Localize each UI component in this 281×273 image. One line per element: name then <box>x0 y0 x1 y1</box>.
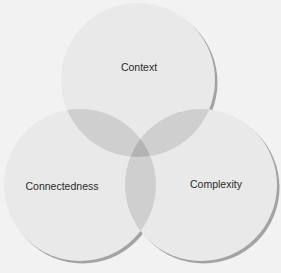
context-label: Context <box>121 61 157 73</box>
connectedness-label: Connectedness <box>26 180 99 192</box>
venn-diagram: Context Connectedness Complexity <box>0 0 281 273</box>
complexity-label: Complexity <box>190 178 243 190</box>
